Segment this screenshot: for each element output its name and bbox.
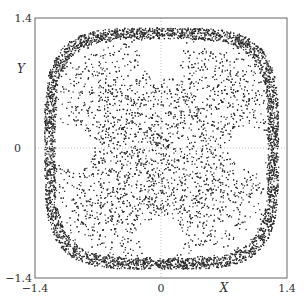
data-point [227, 172, 228, 173]
data-point [189, 216, 190, 217]
data-point [253, 253, 254, 254]
data-point [257, 46, 258, 47]
data-point [236, 195, 237, 196]
data-point [254, 51, 255, 52]
data-point [158, 116, 159, 117]
data-point [261, 69, 262, 70]
data-point [237, 76, 238, 77]
data-point [188, 67, 189, 68]
data-point [130, 168, 131, 169]
data-point [265, 212, 266, 213]
data-point [156, 33, 157, 34]
data-point [220, 201, 221, 202]
data-point [266, 86, 267, 87]
data-point [170, 30, 171, 31]
data-point [207, 151, 208, 152]
data-point [183, 261, 184, 262]
data-point [167, 98, 168, 99]
data-point [72, 46, 73, 47]
data-point [198, 238, 199, 239]
data-point [263, 119, 264, 120]
data-point [72, 67, 73, 68]
data-point [144, 149, 145, 150]
data-point [246, 81, 247, 82]
data-point [123, 252, 124, 253]
data-point [95, 55, 96, 56]
data-point [203, 32, 204, 33]
data-point [119, 177, 120, 178]
data-point [240, 78, 241, 79]
data-point [94, 137, 95, 138]
data-point [56, 235, 57, 236]
data-point [92, 74, 93, 75]
data-point [103, 87, 104, 88]
data-point [215, 243, 216, 244]
data-point [106, 129, 107, 130]
data-point [98, 181, 99, 182]
data-point [221, 196, 222, 197]
data-point [174, 266, 175, 267]
data-point [258, 127, 259, 128]
data-point [168, 30, 169, 31]
data-point [276, 107, 277, 108]
data-point [129, 202, 130, 203]
data-point [232, 170, 233, 171]
data-point [142, 201, 143, 202]
data-point [173, 149, 174, 150]
data-point [220, 163, 221, 164]
data-point [202, 148, 203, 149]
data-point [124, 258, 125, 259]
data-point [169, 105, 170, 106]
data-point [236, 207, 237, 208]
data-point [200, 256, 201, 257]
data-point [272, 211, 273, 212]
data-point [228, 186, 229, 187]
data-point [274, 114, 275, 115]
data-point [264, 235, 265, 236]
data-point [101, 259, 102, 260]
data-point [64, 65, 65, 66]
data-point [47, 130, 48, 131]
data-point [56, 190, 57, 191]
data-point [66, 66, 67, 67]
data-point [207, 160, 208, 161]
data-point [238, 39, 239, 40]
data-point [196, 36, 197, 37]
data-point [277, 114, 278, 115]
data-point [247, 39, 248, 40]
data-point [149, 77, 150, 78]
data-point [118, 142, 119, 143]
data-point [153, 183, 154, 184]
data-point [259, 94, 260, 95]
data-point [62, 104, 63, 105]
data-point [260, 122, 261, 123]
data-point [275, 204, 276, 205]
data-point [125, 261, 126, 262]
data-point [98, 200, 99, 201]
data-point [180, 221, 181, 222]
data-point [129, 266, 130, 267]
data-point [118, 259, 119, 260]
data-point [265, 63, 266, 64]
y-tick-label-zero: 0 [14, 142, 21, 155]
data-point [153, 104, 154, 105]
data-point [125, 97, 126, 98]
data-point [89, 217, 90, 218]
data-point [99, 151, 100, 152]
data-point [148, 96, 149, 97]
data-point [268, 136, 269, 137]
data-point [140, 149, 141, 150]
data-point [210, 151, 211, 152]
data-point [266, 212, 267, 213]
data-point [263, 228, 264, 229]
data-point [152, 28, 153, 29]
data-point [218, 40, 219, 41]
data-point [151, 199, 152, 200]
data-point [248, 250, 249, 251]
data-point [216, 200, 217, 201]
data-point [74, 52, 75, 53]
data-point [98, 35, 99, 36]
data-point [157, 88, 158, 89]
data-point [143, 86, 144, 87]
data-point [99, 41, 100, 42]
